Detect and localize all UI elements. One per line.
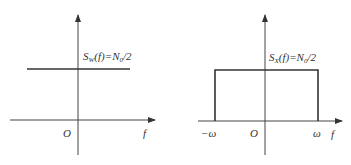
right-f-label: f xyxy=(331,128,336,140)
neg-omega-label: −ω xyxy=(201,127,216,139)
right-origin-label: O xyxy=(250,127,258,139)
right-psd-label: SX(f)=N0/2 xyxy=(269,51,316,65)
left-plot: SW(f)=N0/2 O f xyxy=(10,15,155,155)
left-f-label: f xyxy=(143,127,148,139)
left-origin-label: O xyxy=(63,127,71,139)
right-plot: SX(f)=N0/2 −ω O ω f xyxy=(198,15,342,155)
diagram: SW(f)=N0/2 O f SX(f)=N0/2 −ω O ω f xyxy=(0,0,351,165)
right-psd-rect xyxy=(215,70,318,121)
left-psd-label: SW(f)=N0/2 xyxy=(83,50,132,64)
pos-omega-label: ω xyxy=(313,127,321,139)
